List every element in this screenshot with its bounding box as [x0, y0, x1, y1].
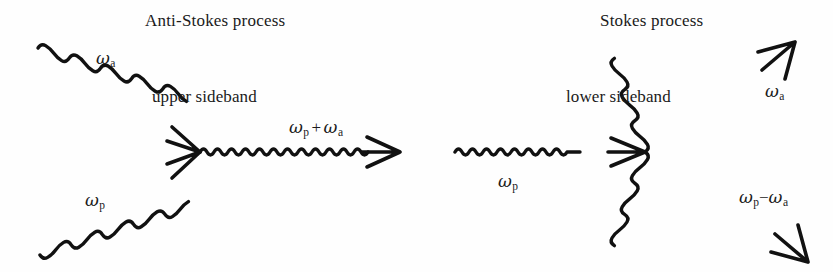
omega-subscript-a: a — [110, 57, 116, 69]
anti-stokes-output-wave — [200, 149, 368, 155]
stokes-arrowhead-lower — [771, 225, 808, 262]
anti-stokes-output-expression: ωp+ωa — [289, 119, 343, 139]
omega-subscript-a: a — [779, 90, 785, 102]
figure-canvas: Anti-Stokes process Stokes process ωa ωp… — [0, 0, 833, 272]
stokes-title: Stokes process — [600, 12, 703, 29]
anti-stokes-input-wave-p — [40, 202, 188, 259]
lower-sideband-label: lower sideband — [566, 88, 671, 105]
stokes-label-omega-p: ωp — [498, 173, 518, 193]
omega-subscript-a: a — [337, 126, 343, 138]
omega-glyph: ω — [769, 187, 783, 207]
minus-operator: − — [759, 188, 769, 207]
omega-glyph: ω — [739, 187, 753, 207]
omega-subscript-p: p — [99, 199, 105, 211]
wave-diagram-svg — [0, 0, 833, 272]
omega-glyph: ω — [289, 117, 303, 137]
omega-subscript-a: a — [782, 196, 788, 208]
anti-stokes-arrowhead-p — [167, 152, 200, 178]
stokes-label-omega-a: ωa — [765, 83, 784, 103]
upper-sideband-label: upper sideband — [152, 88, 257, 105]
stokes-output-expression: ωp−ωa — [739, 189, 788, 209]
anti-stokes-output-arrowhead — [362, 137, 400, 167]
omega-glyph: ω — [96, 48, 110, 68]
anti-stokes-label-omega-a: ωa — [96, 50, 115, 70]
omega-glyph: ω — [498, 171, 512, 191]
stokes-output-wave-lower — [611, 152, 648, 246]
stokes-input-wave-p — [455, 149, 580, 155]
stokes-arrowhead-p — [608, 138, 645, 166]
omega-glyph: ω — [324, 117, 338, 137]
omega-glyph: ω — [85, 190, 99, 210]
omega-glyph: ω — [765, 81, 779, 101]
anti-stokes-title: Anti-Stokes process — [145, 12, 285, 29]
omega-subscript-p: p — [512, 180, 518, 192]
anti-stokes-label-omega-p: ωp — [85, 192, 105, 212]
plus-operator: + — [309, 118, 324, 137]
anti-stokes-arrowhead-a — [167, 127, 200, 152]
stokes-arrowhead-a — [758, 42, 795, 79]
